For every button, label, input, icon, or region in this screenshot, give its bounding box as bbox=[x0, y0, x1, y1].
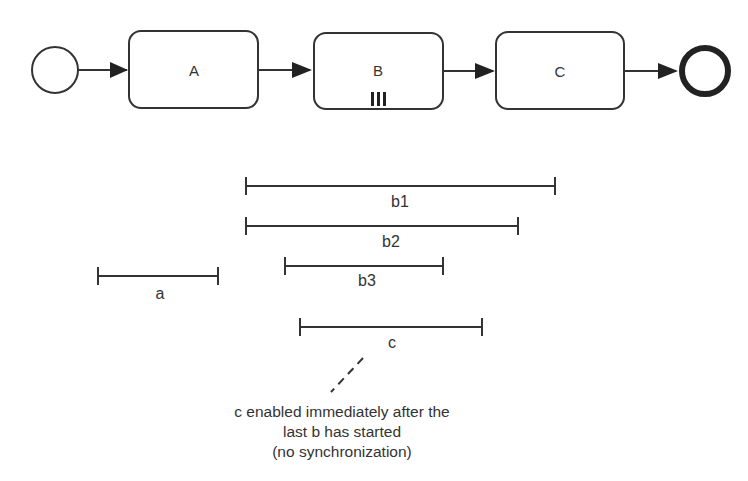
bar-c-label: c bbox=[388, 334, 396, 352]
task-c-label: C bbox=[555, 63, 566, 80]
bar-b1-label: b1 bbox=[391, 193, 409, 211]
task-a-label: A bbox=[189, 62, 199, 79]
task-b-label: B bbox=[373, 62, 383, 79]
bar-b2-label: b2 bbox=[382, 233, 400, 251]
bar-a bbox=[98, 267, 218, 285]
parallel-multi-instance-icon bbox=[371, 92, 386, 106]
annotation-text: c enabled immediately after the last b h… bbox=[234, 402, 449, 462]
annotation-line-2: last b has started bbox=[234, 422, 449, 442]
bar-b3-label: b3 bbox=[358, 272, 376, 290]
annotation-association bbox=[331, 358, 363, 392]
annotation-line-1: c enabled immediately after the bbox=[234, 402, 449, 422]
annotation-line-3: (no synchronization) bbox=[234, 442, 449, 462]
bar-a-label: a bbox=[156, 285, 165, 303]
end-event[interactable] bbox=[682, 48, 728, 94]
start-event[interactable] bbox=[32, 47, 78, 93]
